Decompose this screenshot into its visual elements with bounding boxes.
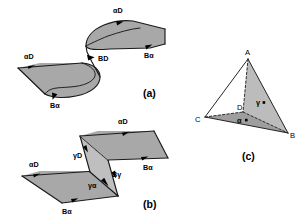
panel-c-caption: (c)	[242, 150, 255, 162]
panel-c-pole-alpha-label: α	[237, 116, 242, 125]
panel-c-vertex-b-label: B	[290, 131, 295, 140]
panel-a: αD Bα BD αD	[18, 6, 165, 110]
panel-c-pole-gamma-dot	[263, 101, 266, 104]
panel-b-label-Balpha-upper: Bα	[143, 163, 153, 172]
panel-c-vertex-a-label: A	[245, 48, 251, 57]
panel-b-label-gammaalpha-lower: γα	[88, 181, 97, 190]
panel-a-label-BD: BD	[98, 54, 108, 63]
panel-c: A B C D γ α (c)	[195, 48, 295, 162]
figure-container: αD Bα BD αD	[0, 0, 305, 219]
panel-b: αD Bα γD γα γα Bγ	[22, 117, 168, 216]
panel-a-label-Balpha-lower: Bα	[50, 101, 60, 110]
panel-b-label-gammaD: γD	[73, 151, 82, 160]
figure-svg: αD Bα BD αD	[0, 0, 305, 219]
panel-b-caption: (b)	[143, 198, 156, 210]
panel-b-label-alphaD-lower: αD	[29, 160, 39, 169]
panel-a-label-alphaD-upper: αD	[113, 6, 123, 15]
panel-a-label-alphaD-lower: αD	[24, 52, 34, 61]
panel-b-label-alphaD-upper: αD	[118, 117, 128, 126]
panel-a-label-Balpha-upper: Bα	[144, 51, 154, 60]
panel-c-vertex-c-label: C	[195, 115, 201, 124]
panel-b-label-Bgamma: Bγ	[112, 170, 121, 179]
panel-a-caption: (a)	[143, 87, 156, 99]
panel-c-pole-alpha-dot	[245, 119, 248, 122]
panel-a-upper-surface	[86, 21, 165, 50]
panel-b-label-Balpha-lower: Bα	[62, 207, 72, 216]
panel-c-vertex-d-label: D	[237, 103, 243, 112]
